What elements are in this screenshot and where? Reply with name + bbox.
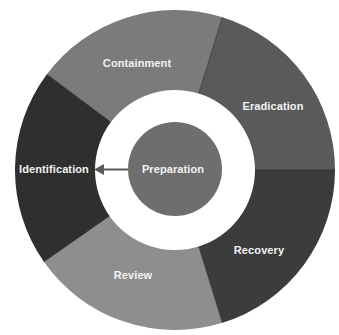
label-containment: Containment — [103, 57, 171, 69]
arrow-to-identification — [94, 164, 128, 175]
label-preparation: Preparation — [142, 163, 204, 175]
label-review: Review — [114, 269, 153, 281]
segment-eradication — [199, 17, 335, 170]
label-identification: Identification — [19, 163, 89, 175]
label-eradication: Eradication — [242, 100, 303, 112]
label-recovery: Recovery — [234, 244, 284, 256]
